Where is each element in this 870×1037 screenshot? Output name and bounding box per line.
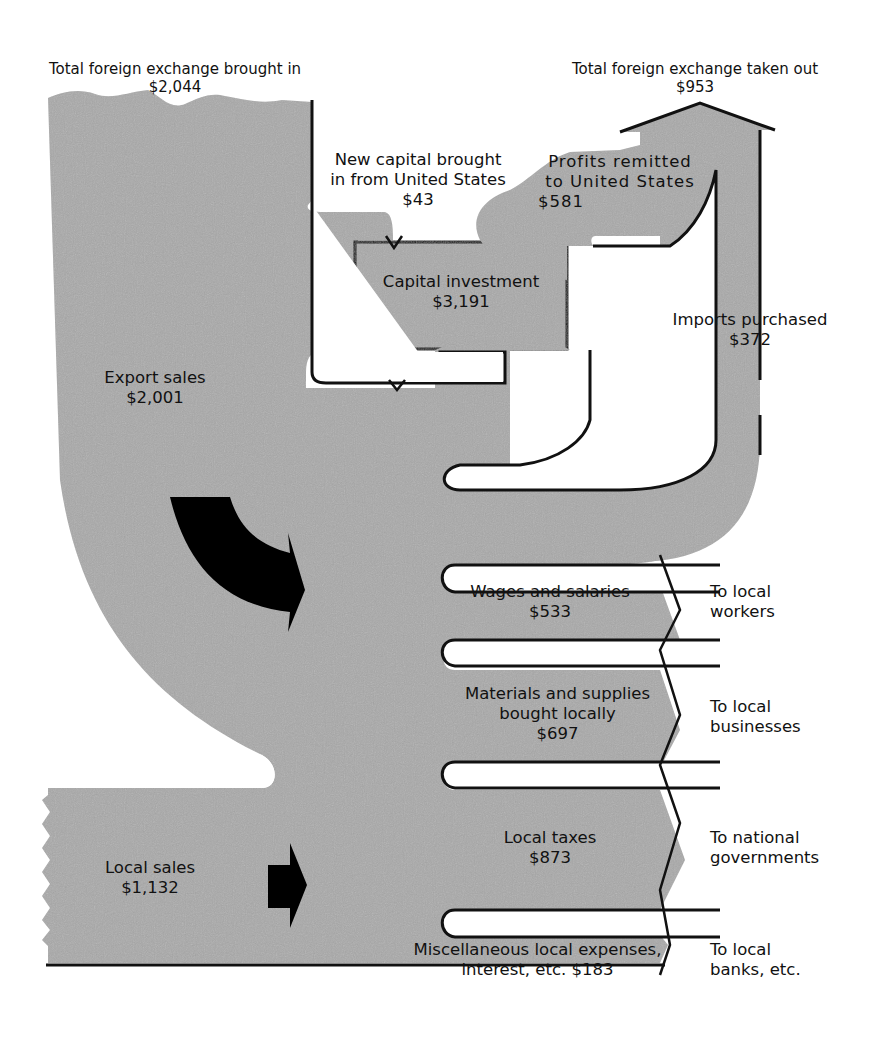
imports-label: Imports purchased $372 <box>645 310 855 350</box>
output-taxes: Local taxes $873 <box>445 828 655 868</box>
inflow-title: Total foreign exchange brought in <box>20 60 330 78</box>
outflow-value: $953 <box>535 78 855 96</box>
outflow-header: Total foreign exchange taken out $953 <box>535 60 855 96</box>
output-misc: Miscellaneous local expenses, interest, … <box>410 940 665 980</box>
export-sales-label: Export sales $2,001 <box>95 368 215 408</box>
foreign-exchange-flow-diagram: Total foreign exchange brought in $2,044… <box>0 0 870 1037</box>
dest-materials: To local businesses <box>710 697 860 737</box>
output-wages: Wages and salaries $533 <box>445 582 655 622</box>
capital-investment-label: Capital investment $3,191 <box>355 272 567 312</box>
return-flow <box>435 320 570 480</box>
local-sales-label: Local sales $1,132 <box>90 858 210 898</box>
output-materials: Materials and supplies bought locally $6… <box>445 684 670 743</box>
dest-wages: To local workers <box>710 582 860 622</box>
inflow-value: $2,044 <box>20 78 330 96</box>
profits-label: Profits remitted to United States $581 <box>530 152 710 211</box>
dest-misc: To local banks, etc. <box>710 940 860 980</box>
outflow-title: Total foreign exchange taken out <box>535 60 855 78</box>
inflow-header: Total foreign exchange brought in $2,044 <box>20 60 330 96</box>
new-capital-label: New capital brought in from United State… <box>318 150 518 209</box>
dest-taxes: To national governments <box>710 828 860 868</box>
main-flow-shape <box>42 90 775 963</box>
